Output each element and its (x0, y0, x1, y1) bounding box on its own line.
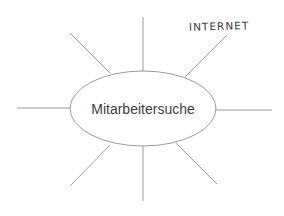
branch-line-north-west (70, 33, 110, 73)
center-node-label: Mitarbeitersuche (70, 71, 216, 146)
branch-line-south-east (176, 143, 217, 184)
branch-line-south-west (70, 145, 110, 186)
branch-label-internet: INTERNET (189, 19, 249, 33)
mindmap-figure: Mitarbeitersuche INTERNET (0, 0, 284, 216)
